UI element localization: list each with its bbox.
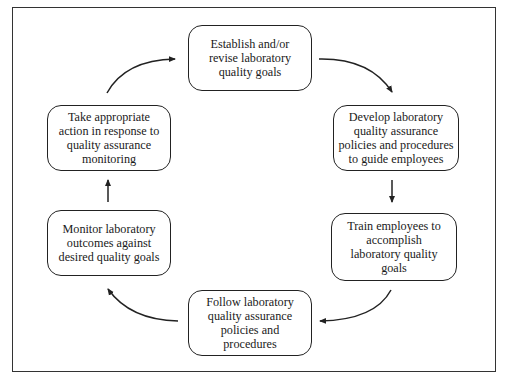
node-take-action: Take appropriate action in response to q…	[47, 105, 171, 171]
node-develop-policies: Develop laboratory quality assurance pol…	[333, 105, 459, 171]
arrow-take-action-to-establish	[107, 59, 175, 93]
arrow-follow-to-monitor	[108, 289, 178, 321]
node-label: Monitor laboratory outcomes against desi…	[59, 222, 160, 264]
node-follow-policies: Follow laboratory quality assurance poli…	[188, 290, 312, 356]
node-establish-goals: Establish and/or revise laboratory quali…	[188, 25, 312, 91]
node-label: Train employees to accomplish laboratory…	[347, 219, 441, 275]
node-label: Take appropriate action in response to q…	[59, 110, 160, 166]
node-label: Develop laboratory quality assurance pol…	[338, 110, 453, 166]
arrow-train-to-follow	[320, 290, 391, 321]
node-label: Follow laboratory quality assurance poli…	[206, 295, 294, 351]
node-label: Establish and/or revise laboratory quali…	[209, 37, 291, 79]
node-monitor-outcomes: Monitor laboratory outcomes against desi…	[47, 210, 171, 276]
node-train-employees: Train employees to accomplish laboratory…	[331, 213, 457, 281]
arrow-establish-to-develop	[319, 59, 392, 92]
